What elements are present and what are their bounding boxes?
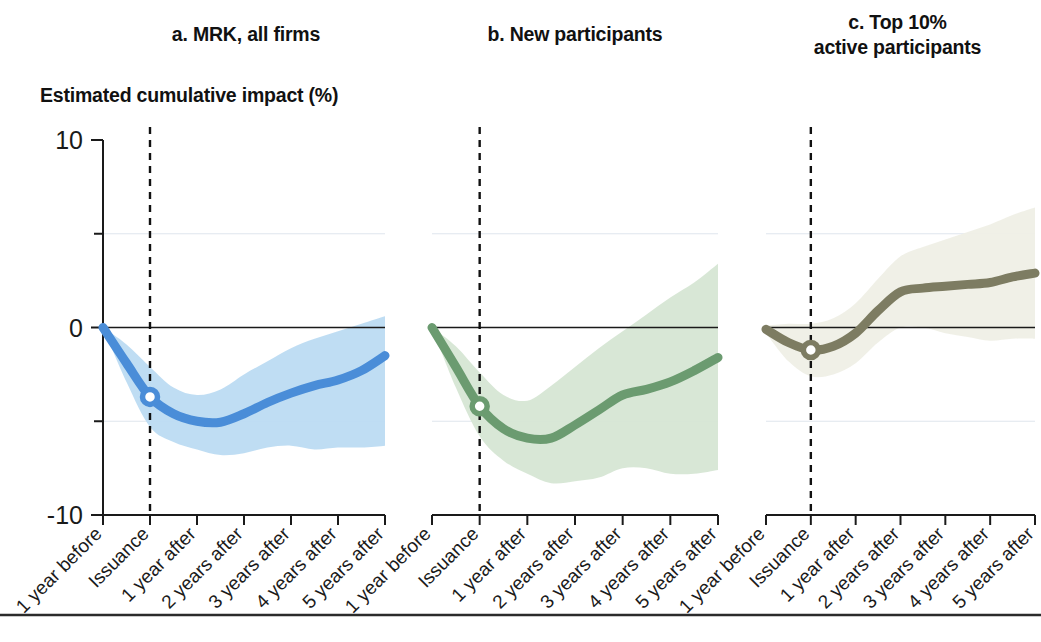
issuance-marker-c (803, 343, 818, 358)
y-tick-label-0: 0 (69, 314, 83, 342)
panel-a: 100-10 (47, 126, 385, 529)
panel-c (766, 127, 1035, 525)
panel-b (432, 127, 718, 525)
chart-canvas: 100-10 1 year beforeIssuance1 year after… (0, 0, 1041, 642)
confidence-band-b (432, 264, 718, 484)
figure-root: a. MRK, all firms b. New participants c.… (0, 0, 1041, 642)
issuance-marker-b (472, 399, 487, 414)
issuance-marker-a (143, 389, 158, 404)
panels-layer: 100-10 (47, 126, 1035, 529)
y-tick-label-10: 10 (55, 126, 83, 154)
y-tick-label--10: -10 (47, 501, 83, 529)
x-tick-labels-layer: 1 year beforeIssuance1 year after2 years… (12, 523, 1038, 617)
